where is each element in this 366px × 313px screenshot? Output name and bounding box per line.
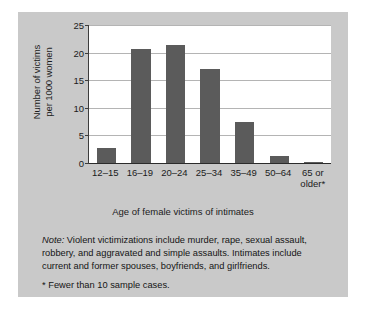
bar[interactable] bbox=[200, 69, 219, 163]
bar-slot bbox=[193, 25, 228, 163]
y-axis-tick-label: 15 bbox=[73, 75, 84, 86]
bar-slot bbox=[262, 25, 297, 163]
y-axis-title: Number of victims per 1000 women bbox=[25, 17, 61, 147]
bar[interactable] bbox=[166, 45, 185, 163]
y-axis-tick-label: 10 bbox=[73, 102, 84, 113]
x-axis-title: Age of female victims of intimates bbox=[18, 206, 348, 217]
y-axis-tick-label: 20 bbox=[73, 47, 84, 58]
y-axis-title-line1: Number of victims bbox=[31, 45, 43, 119]
y-axis-tick-label: 5 bbox=[79, 130, 84, 141]
x-axis-tick-label: 35–49 bbox=[226, 167, 261, 189]
bar[interactable] bbox=[235, 122, 254, 163]
x-axis-tick-label: 20–24 bbox=[157, 167, 192, 189]
bar[interactable] bbox=[270, 156, 289, 163]
y-axis-tick-label: 25 bbox=[73, 20, 84, 31]
x-axis-tick-label: 65 or older* bbox=[295, 167, 330, 189]
bar-slot bbox=[158, 25, 193, 163]
y-axis-tick-labels: 0510152025 bbox=[58, 25, 84, 163]
bar-slot bbox=[124, 25, 159, 163]
bar-series bbox=[89, 25, 331, 163]
note-text: Violent victimizations include murder, r… bbox=[42, 235, 307, 271]
x-axis-tick-label: 12–15 bbox=[88, 167, 123, 189]
bar[interactable] bbox=[97, 148, 116, 163]
plot-area bbox=[88, 25, 331, 164]
footnote: * Fewer than 10 sample cases. bbox=[42, 279, 330, 292]
x-axis-tick-label: 50–64 bbox=[261, 167, 296, 189]
bar-slot bbox=[227, 25, 262, 163]
note-block: Note: Violent victimizations include mur… bbox=[42, 234, 330, 274]
bar-slot bbox=[296, 25, 331, 163]
chart-plot-block: Number of victims per 1000 women 0510152… bbox=[18, 12, 348, 187]
bar-slot bbox=[89, 25, 124, 163]
x-axis-tick-labels: 12–1516–1920–2425–3435–4950–6465 or olde… bbox=[88, 167, 330, 189]
x-axis-tick-label: 25–34 bbox=[192, 167, 227, 189]
bar[interactable] bbox=[131, 49, 150, 163]
figure-panel: Number of victims per 1000 women 0510152… bbox=[18, 12, 348, 297]
bar[interactable] bbox=[304, 162, 323, 163]
note-label: Note: bbox=[42, 235, 64, 245]
y-axis-tick-label: 0 bbox=[79, 158, 84, 169]
y-axis-tick-mark bbox=[85, 163, 89, 164]
x-axis-tick-label: 16–19 bbox=[123, 167, 158, 189]
y-axis-title-line2: per 1000 women bbox=[43, 47, 55, 116]
